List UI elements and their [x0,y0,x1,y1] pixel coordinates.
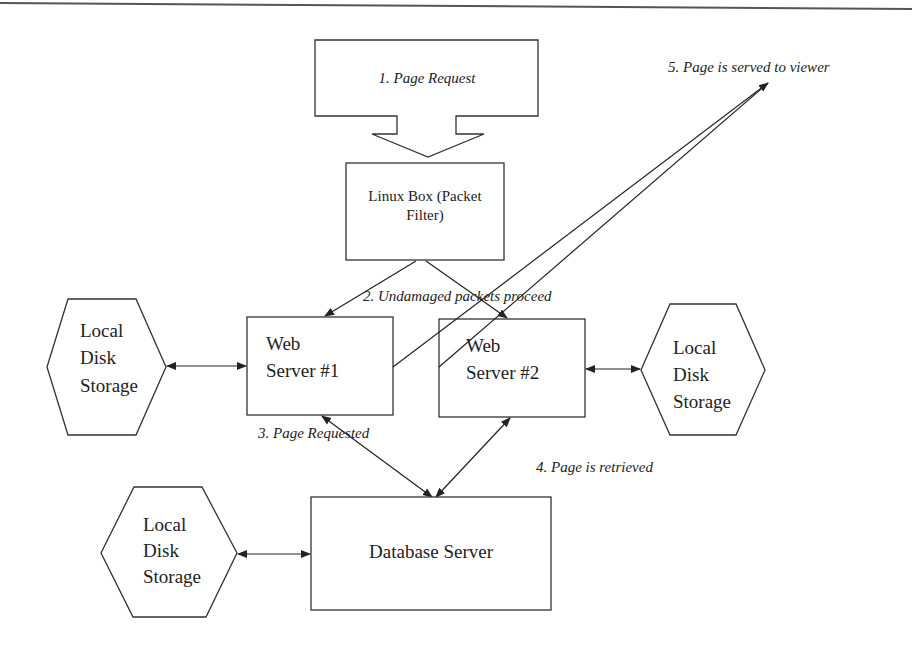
storage-left-line1: Local [80,320,123,341]
page-request-label: 1. Page Request [378,70,476,86]
step2-label: 2. Undamaged packets proceed [363,288,552,304]
storage-right-line2: Disk [673,364,709,385]
storage-left-line3: Storage [80,375,138,396]
step4-label: 4. Page is retrieved [536,459,653,475]
storage-db-line3: Storage [143,566,201,587]
page-request-arrow [315,40,538,157]
web-server-1-label-line2: Server #1 [266,360,339,381]
web-server-2-label-line1: Web [466,335,500,356]
database-server-label: Database Server [369,541,494,562]
web-server-2-label-line2: Server #2 [466,362,539,383]
storage-right-line3: Storage [673,391,731,412]
step5-label: 5. Page is served to viewer [668,59,830,75]
storage-db-line2: Disk [143,540,179,561]
edge-web2-database [436,418,510,497]
linux-box-label-line1: Linux Box (Packet [368,188,482,205]
top-border-line [0,3,912,9]
storage-db-line1: Local [143,514,186,535]
linux-box-label-line2: Filter) [406,207,444,224]
storage-right-line1: Local [673,337,716,358]
storage-left-line2: Disk [80,347,116,368]
architecture-diagram: 1. Page Request Linux Box (Packet Filter… [0,0,912,661]
web-server-1-label-line1: Web [266,333,300,354]
step3-label: 3. Page Requested [257,425,370,441]
